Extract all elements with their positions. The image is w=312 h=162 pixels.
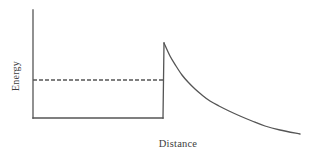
y-axis-label-text: Energy [11, 61, 21, 91]
potential-well-plot [0, 0, 312, 162]
barrier-wall-line [163, 43, 164, 118]
energy-distance-diagram: Energy Distance [0, 0, 312, 162]
x-axis-label: Distance [140, 139, 216, 150]
coulomb-decay-curve [164, 43, 300, 134]
y-axis-label: Energy [9, 48, 23, 104]
